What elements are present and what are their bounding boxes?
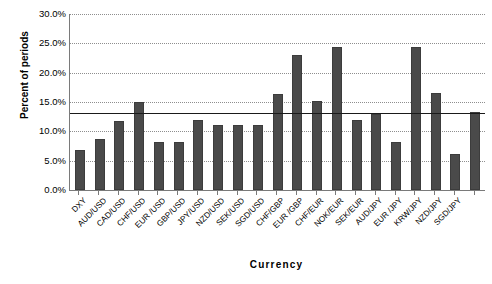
bar[interactable] (174, 142, 184, 190)
y-axis-tick-label: 0.0% (24, 185, 66, 195)
x-tick-slot (148, 190, 168, 195)
bar[interactable] (292, 55, 302, 190)
x-tick-slot (109, 190, 129, 195)
bar-slot (228, 14, 248, 190)
y-axis-tick-label: 5.0% (24, 156, 66, 166)
x-axis-tick (78, 190, 79, 195)
y-axis-tick-label: 30.0% (24, 9, 66, 19)
x-axis-tick (414, 190, 415, 195)
x-axis-title: Currency (69, 259, 484, 270)
x-tick-slot (425, 190, 445, 195)
bar[interactable] (114, 121, 124, 190)
x-tick-slot (267, 190, 287, 195)
bar[interactable] (193, 120, 203, 190)
bar-slot (149, 14, 169, 190)
bar-slot (129, 14, 149, 190)
x-axis-tick (237, 190, 238, 195)
plot-area (69, 14, 485, 191)
bar[interactable] (332, 47, 342, 190)
bar[interactable] (75, 150, 85, 190)
bar-slot (465, 14, 485, 190)
x-axis-tick (355, 190, 356, 195)
y-axis-tick-label: 25.0% (24, 38, 66, 48)
y-axis-tick-label: 15.0% (24, 97, 66, 107)
bar[interactable] (134, 102, 144, 190)
x-tick-slot (89, 190, 109, 195)
y-axis-tick-label: 10.0% (24, 126, 66, 136)
bars-layer (70, 14, 485, 190)
x-tick-slot (346, 190, 366, 195)
bar[interactable] (450, 154, 460, 190)
x-axis-tick (217, 190, 218, 195)
bar-slot (406, 14, 426, 190)
bar[interactable] (352, 120, 362, 190)
x-axis-tick (157, 190, 158, 195)
bar-slot (307, 14, 327, 190)
bar-slot (70, 14, 90, 190)
x-axis-tick (296, 190, 297, 195)
bar[interactable] (154, 142, 164, 190)
x-axis-tick (395, 190, 396, 195)
bar-slot (248, 14, 268, 190)
x-axis-tick (375, 190, 376, 195)
x-axis-tick (335, 190, 336, 195)
x-axis-tick-labels: DXYAUD/USDCAD/USDCHF/USDEUR /USDGBP/USDJ… (69, 196, 484, 252)
x-axis-tick (474, 190, 475, 195)
x-tick-slot (168, 190, 188, 195)
x-tick-slot (405, 190, 425, 195)
x-tick-slot (247, 190, 267, 195)
reference-line (70, 113, 485, 114)
x-tick-slot (464, 190, 484, 195)
bar-slot (189, 14, 209, 190)
x-tick-slot (227, 190, 247, 195)
bar[interactable] (312, 101, 322, 190)
bar-slot (327, 14, 347, 190)
bar[interactable] (371, 114, 381, 190)
bar[interactable] (253, 125, 263, 190)
bar-slot (287, 14, 307, 190)
x-tick-slot (385, 190, 405, 195)
bar[interactable] (391, 142, 401, 190)
x-tick-slot (326, 190, 346, 195)
x-tick-slot (286, 190, 306, 195)
x-axis-tick (256, 190, 257, 195)
x-tick-slot (69, 190, 89, 195)
bar-slot (386, 14, 406, 190)
x-axis-tick (118, 190, 119, 195)
x-tick-slot (188, 190, 208, 195)
bar[interactable] (470, 112, 480, 190)
bar-slot (169, 14, 189, 190)
x-axis-tick (138, 190, 139, 195)
bar[interactable] (273, 94, 283, 190)
bar-slot (110, 14, 130, 190)
y-axis-tick-label: 20.0% (24, 68, 66, 78)
bar-slot (90, 14, 110, 190)
bar-slot (268, 14, 288, 190)
bar[interactable] (233, 125, 243, 190)
x-axis-tick (276, 190, 277, 195)
bar-slot (426, 14, 446, 190)
x-axis-tick (177, 190, 178, 195)
x-tick-slot (445, 190, 465, 195)
x-tick-slot (306, 190, 326, 195)
x-tick-slot (128, 190, 148, 195)
bar-chart: Percent of periods 0.0%5.0%10.0%15.0%20.… (0, 0, 492, 284)
bar[interactable] (95, 139, 105, 190)
x-axis-tick (454, 190, 455, 195)
bar-slot (347, 14, 367, 190)
bar-slot (208, 14, 228, 190)
y-axis-tick-labels: 0.0%5.0%10.0%15.0%20.0%25.0%30.0% (24, 14, 66, 190)
x-axis-ticks (69, 190, 484, 195)
bar[interactable] (431, 93, 441, 190)
x-label-slot (464, 196, 484, 252)
bar-slot (446, 14, 466, 190)
bar[interactable] (213, 125, 223, 190)
x-tick-slot (365, 190, 385, 195)
x-axis-tick (98, 190, 99, 195)
bar-slot (366, 14, 386, 190)
x-axis-tick (316, 190, 317, 195)
x-axis-tick (197, 190, 198, 195)
x-tick-slot (207, 190, 227, 195)
x-axis-tick (434, 190, 435, 195)
bar[interactable] (411, 47, 421, 190)
